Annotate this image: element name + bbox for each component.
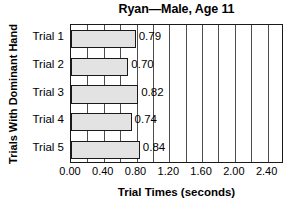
x-axis-tick-labels: 0.000.400.801.201.602.002.40 xyxy=(70,165,283,183)
x-axis-tick-label: 1.20 xyxy=(158,165,179,177)
chart-title: Ryan—Male, Age 11 xyxy=(70,2,283,16)
y-axis-tick-label: Trial 5 xyxy=(32,141,64,153)
x-axis-tick-label: 0.00 xyxy=(59,165,80,177)
data-value-label: 0.82 xyxy=(141,86,163,98)
data-value-label: 0.84 xyxy=(143,141,165,153)
x-axis-tick-label: 0.40 xyxy=(92,165,113,177)
data-value-label: 0.74 xyxy=(135,113,157,125)
y-axis-tick-label: Trial 2 xyxy=(32,58,64,70)
x-axis-tick-label: 2.40 xyxy=(256,165,277,177)
data-value-label: 0.79 xyxy=(139,30,161,42)
y-axis-tick-label: Trial 4 xyxy=(32,113,64,125)
x-axis-tick-label: 1.60 xyxy=(190,165,211,177)
x-axis-title: Trial Times (seconds) xyxy=(70,186,283,198)
y-axis-tick-label: Trial 3 xyxy=(32,86,64,98)
bar-chart-figure: Ryan—Male, Age 11 Trials With Dominant H… xyxy=(0,0,303,218)
data-value-labels: 0.790.700.820.740.84 xyxy=(70,24,283,163)
x-axis-tick-label: 2.00 xyxy=(223,165,244,177)
x-axis-tick-label: 0.80 xyxy=(125,165,146,177)
y-axis-tick-label: Trial 1 xyxy=(32,30,64,42)
data-value-label: 0.70 xyxy=(131,58,153,70)
y-axis-tick-labels: Trial 1Trial 2Trial 3Trial 4Trial 5 xyxy=(0,24,68,163)
